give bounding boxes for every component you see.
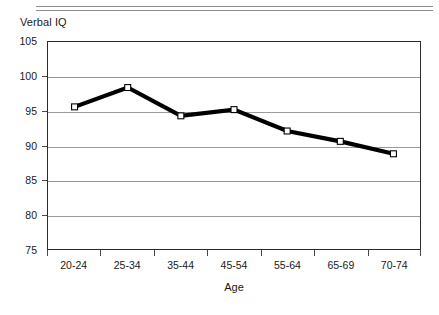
plot-area — [47, 41, 421, 250]
x-tick-label: 45-54 — [221, 259, 248, 271]
y-tick-label: 100 — [19, 71, 37, 81]
x-axis-title: Age — [47, 281, 421, 293]
header-rules — [36, 6, 433, 12]
x-tick-label: 35-44 — [167, 259, 194, 271]
header-rule-top — [36, 6, 433, 7]
data-point-marker — [125, 85, 131, 91]
x-tick-label: 65-69 — [327, 259, 354, 271]
data-point-marker — [337, 138, 343, 144]
y-tick-label: 95 — [25, 106, 37, 116]
data-point-marker — [231, 107, 237, 113]
x-axis: 20-2425-3435-4445-5455-6465-6970-74 — [47, 250, 421, 280]
series-line — [75, 88, 394, 154]
x-tick-mark — [207, 250, 208, 256]
header-rule-bottom — [36, 10, 433, 11]
y-tick-label: 90 — [25, 141, 37, 151]
x-tick-mark — [314, 250, 315, 256]
x-tick-label: 70-74 — [381, 259, 408, 271]
x-tick-mark — [420, 250, 421, 256]
x-tick-mark — [154, 250, 155, 256]
data-point-marker — [178, 113, 184, 119]
y-tick-label: 85 — [25, 175, 37, 185]
y-tick-label: 75 — [25, 245, 37, 255]
data-point-marker — [72, 104, 78, 110]
x-tick-mark — [261, 250, 262, 256]
x-tick-mark — [368, 250, 369, 256]
data-point-marker — [284, 128, 290, 134]
y-tick-label: 80 — [25, 210, 37, 220]
y-axis: 1051009590858075 — [0, 41, 47, 250]
x-tick-mark — [47, 250, 48, 256]
data-series — [48, 42, 420, 249]
x-tick-label: 20-24 — [60, 259, 87, 271]
series-markers — [72, 85, 397, 157]
x-tick-mark — [100, 250, 101, 256]
x-tick-label: 55-64 — [274, 259, 301, 271]
x-tick-label: 25-34 — [114, 259, 141, 271]
data-point-marker — [390, 151, 396, 157]
chart-title: Verbal IQ — [20, 16, 67, 28]
y-tick-label: 105 — [19, 36, 37, 46]
